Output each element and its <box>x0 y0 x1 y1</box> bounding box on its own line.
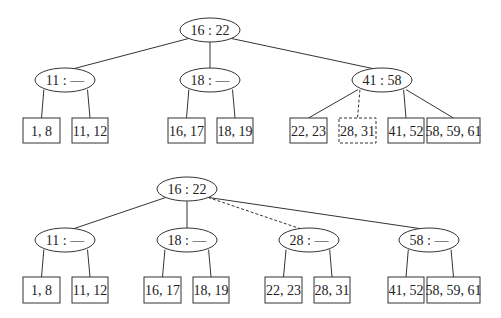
tree-edge <box>88 250 91 277</box>
internal-node: 18 : — <box>180 68 240 92</box>
leaf-label: 1, 8 <box>31 124 52 139</box>
leaf-node: 22, 23 <box>265 277 302 303</box>
node-label: 41 : 58 <box>363 73 402 88</box>
leaf-node: 28, 31 <box>339 118 376 143</box>
node-label: 16 : 22 <box>168 182 207 197</box>
node-label: 16 : 22 <box>191 23 230 38</box>
leaf-node: 41, 52 <box>388 277 424 303</box>
tree-edge <box>233 90 236 118</box>
edges <box>42 197 454 277</box>
b-tree-diagram: 16 : 2211 : —18 : —41 : 581, 811, 1216, … <box>0 0 501 318</box>
tree-before: 16 : 2211 : —18 : —41 : 581, 811, 1216, … <box>23 18 482 143</box>
leaf-label: 11, 12 <box>73 124 107 139</box>
leaf-node: 1, 8 <box>23 118 60 143</box>
node-label: 58 : — <box>410 233 450 248</box>
internal-node: 11 : — <box>35 68 95 92</box>
leaf-node: 16, 17 <box>168 118 205 143</box>
internal-node: 41 : 58 <box>352 68 412 92</box>
tree-edge <box>209 250 211 277</box>
tree-edge <box>451 250 453 277</box>
leaf-node: 41, 52 <box>388 118 424 143</box>
tree-edge-dashed <box>358 90 360 118</box>
node-label: 28 : — <box>290 233 330 248</box>
leaf-node: 28, 31 <box>314 277 350 303</box>
root-node: 16 : 22 <box>180 18 240 42</box>
root-node: 16 : 22 <box>157 177 217 201</box>
leaf-label: 1, 8 <box>31 283 52 298</box>
tree-edge <box>309 90 359 118</box>
leaf-node: 18, 19 <box>193 277 229 303</box>
tree-edge <box>231 38 373 68</box>
leaf-node: 58, 59, 61 <box>426 277 482 303</box>
internal-node: 18 : — <box>157 228 217 252</box>
tree-after: 16 : 2211 : —18 : —28 : —58 : —1, 811, 1… <box>23 177 482 303</box>
leaf-label: 11, 12 <box>73 283 107 298</box>
tree-edge-dashed <box>208 197 300 228</box>
tree-edge <box>330 250 332 277</box>
internal-node: 58 : — <box>399 228 459 252</box>
leaf-node: 11, 12 <box>72 277 108 303</box>
node-label: 18 : — <box>168 233 208 248</box>
leaf-node: 18, 19 <box>217 118 253 143</box>
leaf-label: 58, 59, 61 <box>426 124 482 139</box>
leaf-label: 18, 19 <box>218 124 253 139</box>
node-label: 11 : — <box>46 233 85 248</box>
internal-node: 28 : — <box>279 228 339 252</box>
tree-edge <box>404 90 406 118</box>
tree-edge <box>163 250 165 277</box>
leaf-node: 58, 59, 61 <box>426 118 482 143</box>
tree-edge <box>42 90 44 118</box>
tree-edge <box>42 250 44 277</box>
nodes: 16 : 2211 : —18 : —41 : 581, 811, 1216, … <box>23 18 482 143</box>
leaf-label: 16, 17 <box>169 124 204 139</box>
leaf-node: 22, 23 <box>290 118 327 143</box>
tree-edge <box>406 90 454 118</box>
tree-edge <box>74 197 166 228</box>
leaf-label: 28, 31 <box>340 124 375 139</box>
tree-edge <box>284 250 287 277</box>
tree-edge <box>208 197 420 228</box>
leaf-label: 22, 23 <box>266 283 301 298</box>
leaf-label: 41, 52 <box>389 124 424 139</box>
leaf-label: 16, 17 <box>145 283 180 298</box>
tree-edge <box>406 250 408 277</box>
nodes: 16 : 2211 : —18 : —28 : —58 : —1, 811, 1… <box>23 177 482 303</box>
tree-edge <box>187 90 189 118</box>
leaf-label: 41, 52 <box>389 283 424 298</box>
internal-node: 11 : — <box>35 228 95 252</box>
node-label: 11 : — <box>46 73 85 88</box>
leaf-node: 11, 12 <box>72 118 108 143</box>
leaf-label: 28, 31 <box>315 283 350 298</box>
tree-edge <box>74 38 189 68</box>
leaf-label: 58, 59, 61 <box>426 283 482 298</box>
tree-edge <box>88 90 91 118</box>
leaf-node: 1, 8 <box>23 277 60 303</box>
leaf-label: 18, 19 <box>194 283 229 298</box>
leaf-label: 22, 23 <box>291 124 326 139</box>
node-label: 18 : — <box>191 73 231 88</box>
leaf-node: 16, 17 <box>144 277 181 303</box>
